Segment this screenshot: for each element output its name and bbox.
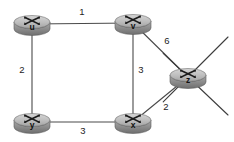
- router-label-x: x: [131, 120, 136, 130]
- edge-weight-v-x: 3: [138, 64, 143, 75]
- router-label-z: z: [186, 75, 190, 85]
- router-node-x[interactable]: x: [115, 114, 151, 134]
- edge-weight-u-v: 1: [79, 6, 84, 17]
- router-node-z[interactable]: z: [170, 69, 206, 89]
- router-label-u: u: [29, 22, 34, 32]
- network-topology-svg: uvzyx 123623: [0, 0, 234, 142]
- router-node-u[interactable]: u: [14, 16, 50, 36]
- router-label-y: y: [30, 120, 35, 130]
- edge-weight-x-z: 2: [163, 101, 168, 112]
- router-node-v[interactable]: v: [115, 15, 151, 35]
- router-node-y[interactable]: y: [14, 114, 50, 134]
- edge-weight-y-x: 3: [80, 125, 85, 136]
- router-label-v: v: [131, 21, 136, 31]
- network-diagram-canvas: uvzyx 123623: [0, 0, 234, 142]
- edge-weight-v-z: 6: [164, 35, 169, 46]
- nodes-group: uvzyx: [14, 15, 206, 134]
- edge-weight-u-y: 2: [19, 64, 24, 75]
